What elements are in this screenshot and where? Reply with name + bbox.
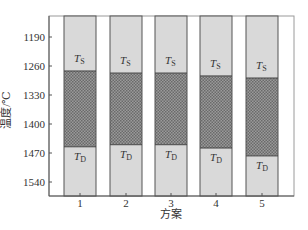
bar-scheme-4: TSTD [200, 16, 232, 196]
bar-scheme-1: TSTD [64, 16, 96, 196]
y-axis-title: 温度/℃ [0, 91, 12, 128]
bar-scheme-5: TSTD [246, 16, 278, 196]
bar-scheme-2: TSTD [110, 16, 142, 196]
x-tick-label: 5 [259, 197, 265, 209]
y-tick-label: 1540 [23, 176, 46, 188]
y-tick-label: 1330 [23, 89, 46, 101]
y-tick-label: 1260 [23, 60, 46, 72]
melt-range-band [246, 78, 278, 156]
x-tick-label: 1 [77, 197, 83, 209]
y-tick-label: 1190 [23, 31, 45, 43]
plot-area: TSTD1TSTD2TSTD3TSTD4TSTD5119012601330140… [0, 16, 294, 220]
y-tick-label: 1400 [23, 118, 46, 130]
y-tick-label: 1470 [23, 147, 46, 159]
x-tick-label: 2 [123, 197, 129, 209]
x-axis-title: 方案 [160, 207, 182, 220]
melt-range-band [155, 73, 187, 145]
chart: TSTD1TSTD2TSTD3TSTD4TSTD5119012601330140… [0, 0, 308, 230]
melt-range-band [110, 73, 142, 145]
melt-range-band [200, 76, 232, 148]
melt-range-band [64, 71, 96, 147]
bar-scheme-3: TSTD [155, 16, 187, 196]
x-tick-label: 4 [213, 197, 219, 209]
